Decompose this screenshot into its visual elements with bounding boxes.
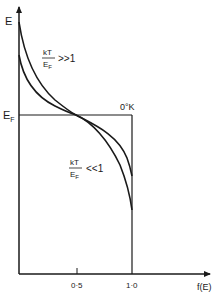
svg-text:<<1: <<1 <box>86 163 104 174</box>
zero-kelvin-label: 0°K <box>120 102 135 112</box>
svg-text:EF: EF <box>43 60 52 70</box>
svg-text:>>1: >>1 <box>58 53 76 64</box>
x-tick-label-1-0: 1·0 <box>126 281 138 290</box>
svg-text:kT: kT <box>70 158 79 167</box>
x-axis-label: f(E) <box>197 282 212 292</box>
fermi-dirac-diagram: E EF 0°K kT EF >>1 kT EF <<1 0·5 1·0 f(E… <box>0 0 223 298</box>
high-temperature-curve <box>19 22 132 176</box>
svg-text:kT: kT <box>43 48 52 57</box>
svg-text:EF: EF <box>70 170 79 180</box>
low-temperature-annotation: kT EF <<1 <box>69 158 104 180</box>
x-tick-label-0-5: 0·5 <box>71 281 83 290</box>
low-temperature-curve <box>19 55 132 210</box>
y-axis-label: E <box>5 15 12 27</box>
fermi-energy-label: EF <box>3 109 15 123</box>
high-temperature-annotation: kT EF >>1 <box>42 48 76 70</box>
